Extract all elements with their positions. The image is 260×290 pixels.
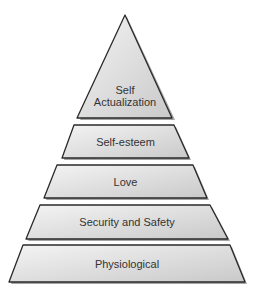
level-label-self-actualization: Self Actualization xyxy=(75,84,175,108)
level-label-physiological: Physiological xyxy=(9,258,245,270)
level-label-line: Self xyxy=(75,84,175,96)
level-label-love: Love xyxy=(44,176,207,188)
level-label-self-esteem: Self-esteem xyxy=(62,136,189,148)
level-label-line: Actualization xyxy=(75,96,175,108)
level-label-security-and-safety: Security and Safety xyxy=(26,216,228,228)
